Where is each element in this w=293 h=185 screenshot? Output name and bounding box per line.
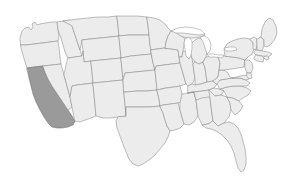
united-states-map[interactable] (0, 0, 293, 185)
state-co[interactable] (91, 58, 123, 83)
state-nm[interactable] (93, 80, 126, 118)
state-ri[interactable] (264, 56, 269, 60)
state-or[interactable] (21, 41, 61, 68)
state-nd[interactable] (117, 16, 149, 36)
state-wy[interactable] (82, 36, 121, 62)
state-fl[interactable] (202, 121, 246, 172)
state-ks[interactable] (123, 70, 157, 92)
lake-ontario-icon (224, 47, 237, 51)
state-nj[interactable] (245, 60, 253, 73)
state-shapes (20, 16, 277, 172)
state-az[interactable] (70, 83, 96, 122)
map-figure (0, 0, 293, 185)
